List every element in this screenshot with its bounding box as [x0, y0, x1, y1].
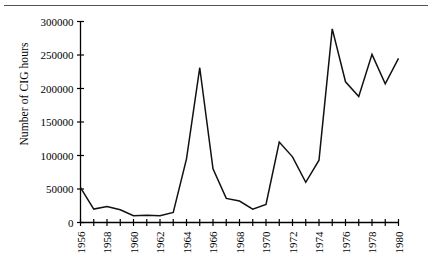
- x-tick-label: 1972: [287, 232, 299, 254]
- y-tick-label: 300000: [41, 16, 75, 28]
- x-axis: 1956195819601962196419661968197019721974…: [75, 219, 405, 254]
- x-tick-label: 1962: [154, 232, 166, 254]
- x-tick-label: 1976: [340, 231, 352, 254]
- series-polyline: [81, 29, 399, 216]
- data-series-cig-hours: [81, 29, 399, 216]
- y-tick-label: 200000: [41, 83, 75, 95]
- x-tick-label: 1960: [128, 231, 140, 254]
- x-tick-label: 1974: [313, 231, 325, 254]
- y-tick-label: 100000: [41, 150, 75, 162]
- line-chart: 050000100000150000200000250000300000 195…: [0, 0, 432, 268]
- x-tick-label: 1958: [101, 231, 113, 254]
- y-tick-label: 50000: [46, 183, 74, 195]
- x-tick-label: 1970: [260, 231, 272, 254]
- y-tick-label: 0: [68, 217, 74, 229]
- x-tick-label: 1980: [393, 231, 405, 254]
- x-tick-label: 1966: [207, 231, 219, 254]
- figure-page: Number of CIG hours 05000010000015000020…: [0, 0, 432, 268]
- y-axis: 050000100000150000200000250000300000: [41, 16, 85, 229]
- y-tick-label: 150000: [41, 116, 75, 128]
- y-tick-label: 250000: [41, 49, 75, 61]
- x-tick-label: 1956: [75, 231, 87, 254]
- x-tick-label: 1968: [234, 231, 246, 254]
- x-tick-label: 1978: [366, 231, 378, 254]
- x-tick-label: 1964: [181, 231, 193, 254]
